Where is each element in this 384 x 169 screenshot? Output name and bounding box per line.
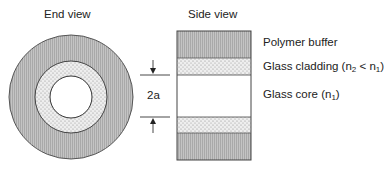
arrow-up-icon — [150, 118, 156, 124]
end-view — [9, 35, 133, 159]
side-view — [177, 31, 251, 160]
side-buffer-bottom — [177, 133, 251, 160]
label-glass-cladding: Glass cladding (n2 < n1) — [263, 60, 384, 74]
label-glass-core: Glass core (n1) — [263, 88, 340, 102]
end-view-title: End view — [44, 8, 91, 20]
side-view-title: Side view — [188, 8, 237, 20]
arrow-down-icon — [150, 68, 156, 74]
side-core — [177, 75, 251, 117]
side-cladding-top — [177, 58, 251, 75]
dimension-label: 2a — [147, 89, 160, 101]
side-buffer-top — [177, 31, 251, 58]
label-polymer-buffer: Polymer buffer — [263, 36, 338, 48]
end-core — [50, 76, 92, 118]
side-cladding-bottom — [177, 117, 251, 133]
